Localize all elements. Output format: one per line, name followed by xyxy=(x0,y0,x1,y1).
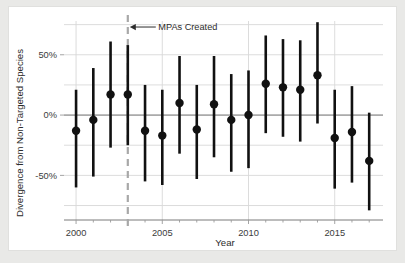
divergence-scatter-chart: 50%0%-50% 2000200520102015 MPAs Created … xyxy=(9,7,398,252)
data-point xyxy=(279,83,287,91)
chart-figure: 50%0%-50% 2000200520102015 MPAs Created … xyxy=(8,6,397,251)
data-point xyxy=(365,157,373,165)
data-point xyxy=(89,116,97,124)
x-tick-label: 2015 xyxy=(324,228,345,238)
y-tick-label: 0% xyxy=(44,110,57,120)
annotation-group: MPAs Created xyxy=(130,22,218,32)
x-axis-title: Year xyxy=(215,237,235,248)
data-point xyxy=(227,116,235,124)
data-point xyxy=(313,71,321,79)
data-point xyxy=(158,131,166,139)
data-point xyxy=(141,127,149,135)
data-point xyxy=(244,111,252,119)
data-point xyxy=(331,134,339,142)
y-tick-label: -50% xyxy=(35,171,57,181)
plot-stage: 50%0%-50% 2000200520102015 MPAs Created … xyxy=(9,7,398,252)
data-point xyxy=(348,128,356,136)
data-point xyxy=(262,80,270,88)
data-point xyxy=(175,99,183,107)
data-point xyxy=(106,90,114,98)
annotation-label: MPAs Created xyxy=(158,22,217,32)
data-point xyxy=(72,127,80,135)
y-axis-title: Divergence from Non-Targeted Species xyxy=(14,49,25,217)
data-point xyxy=(296,86,304,94)
data-points-group xyxy=(72,22,374,210)
x-tick-label: 2000 xyxy=(66,228,87,238)
y-tick-labels-group: 50%0%-50% xyxy=(35,50,57,181)
data-point xyxy=(124,90,132,98)
x-tick-label: 2005 xyxy=(152,228,173,238)
data-point xyxy=(210,100,218,108)
x-tick-label: 2010 xyxy=(238,228,259,238)
y-tick-label: 50% xyxy=(38,50,57,60)
data-point xyxy=(193,125,201,133)
x-tick-labels-group: 2000200520102015 xyxy=(66,228,345,238)
